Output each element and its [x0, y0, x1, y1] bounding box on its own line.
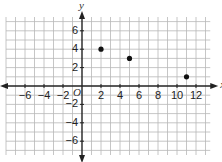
y-tick-label: 4 — [72, 43, 78, 54]
data-point — [127, 56, 132, 61]
data-point — [184, 74, 189, 79]
y-tick-label: −4 — [65, 117, 78, 128]
x-tick-label: 2 — [98, 90, 104, 101]
y-tick-label: 2 — [72, 62, 78, 73]
plot-area — [0, 0, 222, 162]
x-axis-arrow-right-icon — [210, 83, 218, 89]
x-axis-label: x — [220, 79, 222, 90]
x-tick-label: 8 — [155, 90, 161, 101]
data-point — [98, 47, 103, 52]
axes — [0, 11, 218, 162]
y-tick-label: 6 — [72, 25, 78, 36]
data-points — [98, 47, 189, 80]
origin-label: O — [73, 87, 81, 98]
x-tick-label: −4 — [38, 90, 51, 101]
x-tick-label: −6 — [19, 90, 32, 101]
y-tick-label: −2 — [65, 98, 78, 109]
x-tick-label: 10 — [171, 90, 183, 101]
x-tick-label: 4 — [117, 90, 123, 101]
y-tick-label: −6 — [65, 135, 78, 146]
y-axis-label: y — [79, 0, 84, 11]
x-tick-label: 12 — [190, 90, 202, 101]
y-axis-arrow-down-icon — [79, 155, 85, 162]
x-tick-label: 6 — [136, 90, 142, 101]
y-axis-arrow-up-icon — [79, 11, 85, 19]
x-axis-arrow-left-icon — [0, 83, 8, 89]
